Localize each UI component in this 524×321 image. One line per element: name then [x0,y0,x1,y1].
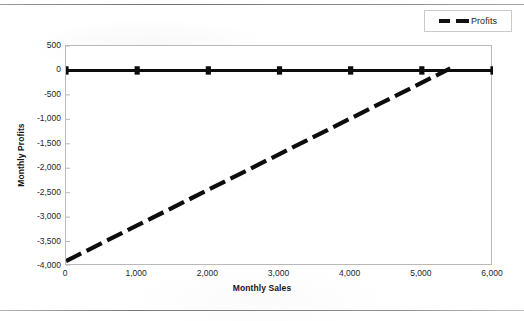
x-axis-tick-label: 3,000 [268,269,289,278]
page-rule-bottom [0,310,524,311]
chart-plot-area [65,45,492,265]
chart-data-marker [135,66,140,74]
chart-data-marker [490,66,493,74]
chart-legend: Profits [424,10,512,32]
chart-data-marker [277,66,282,74]
chart-series-canvas [66,46,493,266]
legend-label-profits: Profits [471,17,497,26]
chart-data-marker [419,66,424,74]
y-axis-ticks-group [66,46,70,266]
chart-series-line [66,68,450,261]
x-axis-tick-label: 6,000 [481,269,502,278]
y-axis-title-label: Monthly Profits [16,123,26,186]
x-axis-tick-label: 1,000 [126,269,147,278]
x-axis-tick-labels: 01,0002,0003,0004,0005,0006,000 [65,269,492,283]
x-axis-tick-label: 4,000 [339,269,360,278]
chart-data-marker [206,66,211,74]
chart-data-marker [66,66,69,74]
x-axis-tick-label: 5,000 [410,269,431,278]
legend-line-sample-dashed-icon [439,19,469,23]
x-axis-tick-label: 2,000 [197,269,218,278]
x-axis-tick-label: 0 [63,269,68,278]
chart-data-marker [348,66,353,74]
page-rule-top [0,4,524,5]
x-axis-title-label: Monthly Sales [0,283,524,293]
series-group [66,66,493,261]
y-axis-title: Monthly Profits [14,45,28,265]
